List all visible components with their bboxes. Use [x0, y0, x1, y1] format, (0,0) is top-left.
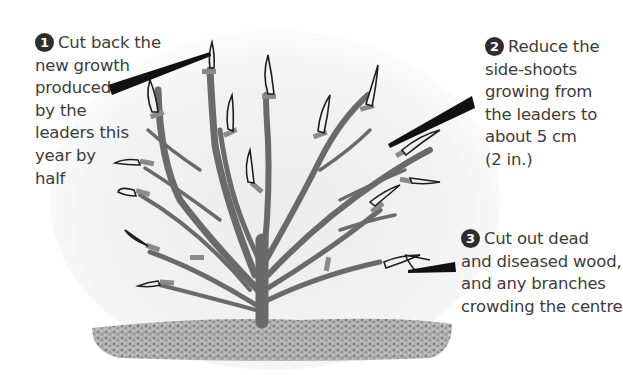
number-badge-1: 1 [35, 33, 54, 52]
number-badge-3: 3 [461, 229, 480, 248]
number-badge-2: 2 [485, 37, 504, 56]
annotation-1: 1Cut back the new growth produced by the… [35, 32, 161, 190]
annotation-2: 2Reduce the side-shoots growing from the… [485, 36, 599, 172]
ground-strip [92, 319, 452, 361]
annotation-3: 3Cut out dead and diseased wood, and any… [461, 228, 623, 318]
